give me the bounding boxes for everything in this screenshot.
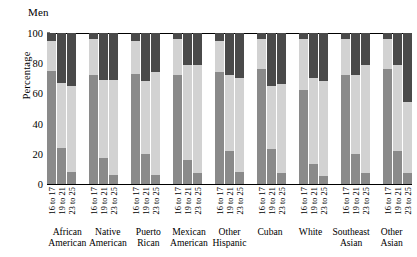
bar-segment [215,41,224,73]
y-tick-label: 40 [33,118,48,129]
y-tick-label: 20 [33,148,48,159]
stacked-bar[interactable] [183,33,192,184]
stacked-bar[interactable] [215,33,224,184]
x-tick-label: 19 to 21 [351,186,360,226]
stacked-bar[interactable] [361,33,370,184]
stacked-bar[interactable] [89,33,98,184]
x-tick-label: 19 to 21 [99,186,108,226]
bar-segment [267,33,276,86]
x-tick-label: 16 to 17 [89,186,98,226]
bar-segment [99,158,108,184]
bar-segment [309,33,318,78]
bar-segment [109,33,118,80]
bar-group [47,33,76,184]
bar-segment [109,175,118,184]
bar-segment [361,173,370,184]
stacked-bar[interactable] [141,33,150,184]
bar-segment [277,33,286,84]
bar-segment [299,90,308,184]
bar-segment [141,33,150,81]
stacked-bar[interactable] [257,33,266,184]
x-tick-label: 23 to 25 [67,186,76,226]
group-label: MexicanAmerican [169,226,210,248]
x-tick-label: 16 to 17 [131,186,140,226]
x-tick-group: 16 to 1719 to 2123 to 25 [341,186,370,226]
group-label: OtherAsian [371,226,412,248]
stacked-bar[interactable] [299,33,308,184]
stacked-bar[interactable] [351,33,360,184]
group-label: SoutheastAsian [331,226,372,248]
bar-segment [361,33,370,65]
stacked-bar[interactable] [131,33,140,184]
stacked-bar[interactable] [47,33,56,184]
bar-group [173,33,202,184]
bar-segment [67,33,76,86]
stacked-bar[interactable] [193,33,202,184]
x-tick-label: 23 to 25 [193,186,202,226]
bar-group [299,33,328,184]
group-label: PuertoRican [128,226,169,248]
bar-group [215,33,244,184]
x-tick-group: 16 to 1719 to 2123 to 25 [47,186,76,226]
x-tick-label: 23 to 25 [109,186,118,226]
bar-segment [173,75,182,184]
bar-group [257,33,286,184]
stacked-bar[interactable] [403,33,412,184]
stacked-bar[interactable] [173,33,182,184]
bar-group [89,33,118,184]
x-tick-label: 23 to 25 [277,186,286,226]
bar-segment [225,151,234,184]
bar-segment [131,33,140,41]
bar-segment [47,33,56,41]
x-tick-group: 16 to 1719 to 2123 to 25 [173,186,202,226]
bar-segment [57,148,66,184]
x-tick-group: 16 to 1719 to 2123 to 25 [131,186,160,226]
stacked-bar[interactable] [151,33,160,184]
group-label: NativeAmerican [88,226,129,248]
stacked-bar[interactable] [393,33,402,184]
x-tick-label: 16 to 17 [299,186,308,226]
bar-segment [383,69,392,184]
stacked-bar[interactable] [277,33,286,184]
bar-segment [89,39,98,75]
bar-segment [235,78,244,172]
x-tick-label: 19 to 21 [183,186,192,226]
bar-segment [309,78,318,164]
stacked-bar[interactable] [99,33,108,184]
stacked-bar[interactable] [109,33,118,184]
bar-group [341,33,370,184]
bar-segment [183,160,192,184]
bar-segment [403,173,412,184]
bar-segment [319,176,328,184]
bar-segment [47,71,56,184]
stacked-bar[interactable] [319,33,328,184]
bar-segment [193,173,202,184]
stacked-bar[interactable] [383,33,392,184]
bar-segment [383,39,392,69]
stacked-bar[interactable] [267,33,276,184]
stacked-bar[interactable] [225,33,234,184]
x-tick-label: 23 to 25 [319,186,328,226]
bar-segment [183,33,192,65]
stacked-bar[interactable] [235,33,244,184]
bar-segment [393,33,402,65]
bar-segment [235,33,244,78]
bar-segment [257,69,266,184]
bar-segment [99,33,108,80]
plot-area: 020406080100 [47,33,412,184]
bar-segment [341,75,350,184]
x-tick-label: 19 to 21 [225,186,234,226]
bar-segment [393,151,402,184]
x-tick-label: 19 to 21 [267,186,276,226]
stacked-bar[interactable] [309,33,318,184]
stacked-bar[interactable] [341,33,350,184]
bar-segment [141,81,150,153]
x-axis-group-labels: AfricanAmericanNativeAmericanPuertoRican… [47,226,412,248]
x-tick-label: 16 to 17 [47,186,56,226]
bar-segment [151,33,160,72]
bar-segment [277,173,286,184]
stacked-bar[interactable] [57,33,66,184]
x-axis-tick-labels: 16 to 1719 to 2123 to 2516 to 1719 to 21… [47,186,412,226]
stacked-bar[interactable] [67,33,76,184]
x-tick-group: 16 to 1719 to 2123 to 25 [257,186,286,226]
